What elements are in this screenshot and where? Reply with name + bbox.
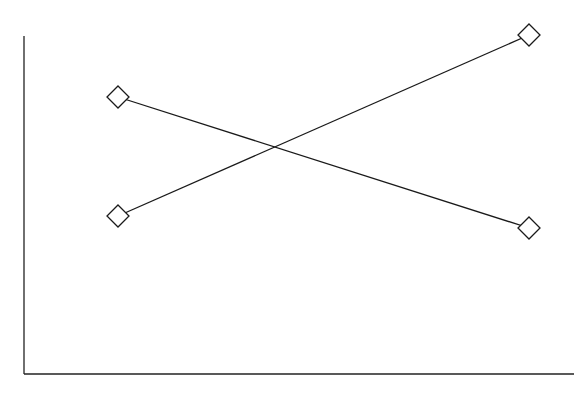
diamond-marker-icon — [518, 24, 540, 46]
series-line-2 — [118, 35, 529, 216]
interaction-plot — [0, 0, 574, 398]
diamond-marker-icon — [518, 217, 540, 239]
diamond-marker-icon — [107, 86, 129, 108]
diamond-marker-icon — [107, 205, 129, 227]
series-line-1 — [118, 97, 529, 228]
plot-canvas — [0, 0, 574, 398]
series-layer — [107, 24, 540, 239]
